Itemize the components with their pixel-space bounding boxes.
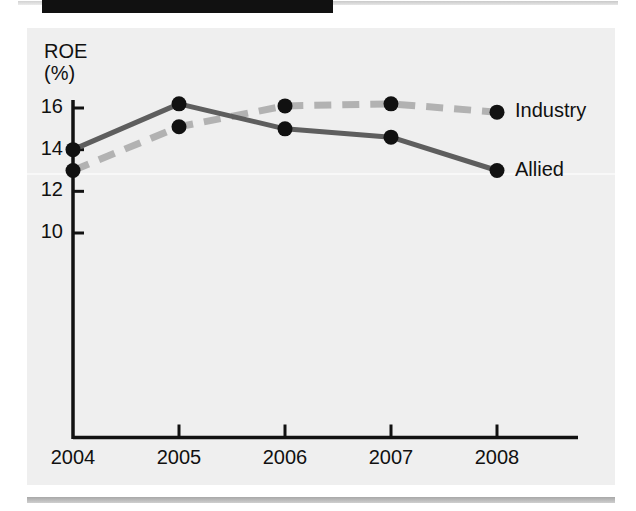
y-tick-label-12: 12 — [29, 178, 63, 201]
legend-label-industry: Industry — [515, 99, 586, 122]
x-tick-label-2005: 2005 — [144, 446, 214, 469]
series-layer — [66, 96, 505, 178]
x-tick-label-2004: 2004 — [38, 446, 108, 469]
x-tick-label-2006: 2006 — [250, 446, 320, 469]
y-axis-title-line2: (%) — [44, 62, 87, 84]
data-point-industry-2005 — [172, 119, 187, 134]
y-axis-title-line1: ROE — [44, 40, 87, 62]
chart-page: ROE (%) 16141210 20042005200620072008 In… — [0, 0, 636, 511]
data-point-industry-2008 — [490, 105, 505, 120]
data-point-allied-2008 — [490, 163, 505, 178]
y-tick-label-10: 10 — [29, 220, 63, 243]
x-tick-label-2007: 2007 — [356, 446, 426, 469]
y-tick-label-16: 16 — [29, 95, 63, 118]
legend-label-allied: Allied — [515, 158, 564, 181]
redacted-title-bar — [42, 0, 333, 13]
data-point-industry-2004 — [66, 163, 81, 178]
data-point-allied-2005 — [172, 96, 187, 111]
data-point-allied-2006 — [278, 121, 293, 136]
x-axis-ticks — [179, 425, 497, 437]
top-bar-shadow-left — [18, 1, 42, 5]
data-point-allied-2007 — [384, 130, 399, 145]
footer-rule — [27, 497, 615, 503]
data-point-industry-2006 — [278, 98, 293, 113]
top-bar-shadow-right — [333, 1, 618, 5]
line-chart-plot — [27, 28, 615, 485]
y-tick-label-14: 14 — [29, 137, 63, 160]
y-axis-title: ROE (%) — [44, 40, 87, 85]
series-line-allied — [73, 104, 497, 171]
data-point-industry-2007 — [384, 96, 399, 111]
series-line-industry — [73, 104, 497, 171]
data-point-allied-2004 — [66, 142, 81, 157]
x-tick-label-2008: 2008 — [462, 446, 532, 469]
